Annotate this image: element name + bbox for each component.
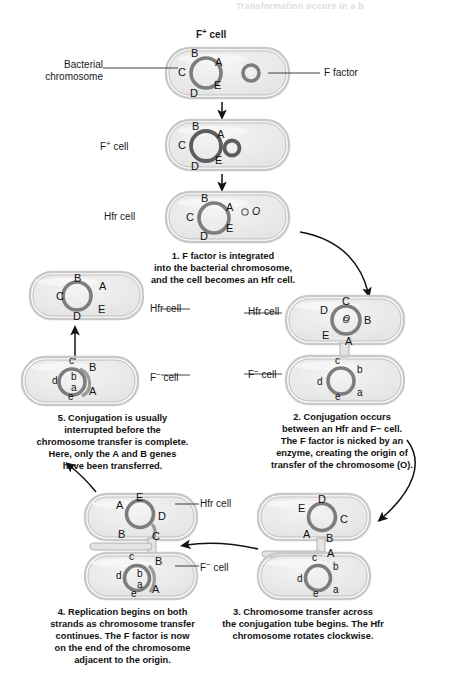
label-stage6-f-minus-cell: F− cell xyxy=(200,560,229,574)
gene-stage1-D: D xyxy=(190,88,198,99)
gene-stage3-E: E xyxy=(226,223,233,234)
label-stage6-hfr-cell: Hfr cell xyxy=(200,498,231,510)
label-bacterial-chromosome-text: Bacterial chromosome xyxy=(45,59,103,82)
caption-step-5: 5. Conjugation is usually interrupted be… xyxy=(10,412,215,472)
gene-stage2-E: E xyxy=(215,155,222,166)
gene-stage6-B: B xyxy=(118,529,125,540)
label-stage7-f-minus-cell: F− cell xyxy=(150,370,179,384)
gene-stage5-transferred-A: A xyxy=(327,548,334,559)
gene-stage5-A: A xyxy=(303,529,310,540)
gene-stage6-d: d xyxy=(116,571,122,581)
caption-step-1: 1. F factor is integrated into the bacte… xyxy=(128,250,318,286)
gene-stage4-C: C xyxy=(342,296,350,307)
gene-stage7-A: A xyxy=(99,281,106,292)
gene-stage6-b: b xyxy=(137,569,143,579)
gene-stage7-B: B xyxy=(74,273,81,284)
gene-stage4-E: E xyxy=(322,330,329,341)
title-f-sup: + xyxy=(202,27,207,36)
gene-stage1-C: C xyxy=(178,67,186,78)
gene-stage5-c: c xyxy=(312,553,317,563)
label-stage3-hfr-cell: Hfr cell xyxy=(104,211,135,223)
diagram-canvas xyxy=(0,0,449,677)
gene-stage5-b: b xyxy=(333,562,339,572)
title-cell-word: cell xyxy=(210,29,227,40)
gene-stage6-c: c xyxy=(129,552,134,562)
gene-stage1-A: A xyxy=(215,57,222,68)
cell-pair-stage5 xyxy=(258,494,370,599)
gene-stage4-c: c xyxy=(335,356,340,366)
gene-stage4-b: b xyxy=(357,365,363,375)
gene-stage4-origin: O xyxy=(343,314,350,323)
gene-stage3-C: C xyxy=(186,212,194,223)
caption-step-2: 2. Conjugation occurs between an Hfr and… xyxy=(242,411,442,471)
gene-stage7f-c: c xyxy=(69,356,74,366)
caption-step-3: 3. Chromosome transfer across the conjug… xyxy=(198,606,408,642)
label-f-factor: F factor xyxy=(324,67,358,79)
gene-stage3-D: D xyxy=(200,231,208,242)
gene-stage7f-A: A xyxy=(89,386,96,397)
gene-stage5-B: B xyxy=(326,533,333,544)
gene-stage5-e: e xyxy=(313,589,319,599)
gene-stage4-a: a xyxy=(357,388,363,398)
gene-stage1-E: E xyxy=(214,80,221,91)
label-stage7-hfr-cell: Hfr cell xyxy=(150,303,181,315)
gene-stage6-E: E xyxy=(136,492,143,503)
gene-stage3-B: B xyxy=(201,193,208,204)
gene-stage2-B: B xyxy=(192,121,199,132)
gene-stage7f-e: e xyxy=(68,392,74,402)
gene-stage6-D: D xyxy=(158,511,166,522)
title-f-plus-cell: F+ cell xyxy=(196,27,226,41)
gene-stage4-A: A xyxy=(345,336,352,347)
gene-stage5-E: E xyxy=(298,503,305,514)
gene-stage6-transferred-B: B xyxy=(155,556,162,567)
label-stage4-f-minus-cell: F− cell xyxy=(248,367,277,381)
gene-stage6-a: a xyxy=(137,580,143,590)
gene-stage6-C: C xyxy=(152,531,160,542)
gene-stage6-A: A xyxy=(116,500,123,511)
gene-stage2-C: C xyxy=(178,140,186,151)
gene-stage6-e: e xyxy=(131,589,137,599)
gene-stage5-a: a xyxy=(333,585,339,595)
label-bacterial-chromosome: Bacterial chromosome xyxy=(33,59,103,82)
gene-stage2-A: A xyxy=(217,129,224,140)
label-stage4-hfr-cell: Hfr cell xyxy=(248,306,279,318)
gene-stage7-C: C xyxy=(56,291,64,302)
conjugation-diagram: Transformation occurs in a b xyxy=(0,0,449,677)
gene-stage6-transferred-A: A xyxy=(152,584,159,595)
gene-stage7-D: D xyxy=(73,311,81,322)
gene-stage3-origin: O xyxy=(252,206,260,217)
gene-stage5-d: d xyxy=(297,574,303,584)
gene-stage1-B: B xyxy=(191,48,198,59)
gene-stage4-B: B xyxy=(364,315,371,326)
cell-stage7-fminus xyxy=(22,357,138,405)
caption-step-4: 4. Replication begins on both strands as… xyxy=(30,606,215,666)
flow-arrow-left xyxy=(186,543,258,549)
gene-stage5-D: D xyxy=(318,494,326,505)
gene-stage7f-d: d xyxy=(52,376,58,386)
gene-stage2-D: D xyxy=(191,161,199,172)
cell-stage3-hfr xyxy=(166,192,289,242)
cell-stage7-hfr xyxy=(30,272,143,319)
gene-stage7f-B: B xyxy=(89,362,96,373)
gene-stage5-C: C xyxy=(340,514,348,525)
gene-stage7f-b: b xyxy=(71,372,77,382)
gene-stage4-e: e xyxy=(335,392,341,402)
gene-stage4-d: d xyxy=(317,377,323,387)
gene-stage4-D: D xyxy=(320,305,328,316)
gene-stage7-E: E xyxy=(98,304,105,315)
label-stage2-f-plus-cell: F+ cell xyxy=(100,139,129,153)
gene-stage3-A: A xyxy=(226,202,233,213)
